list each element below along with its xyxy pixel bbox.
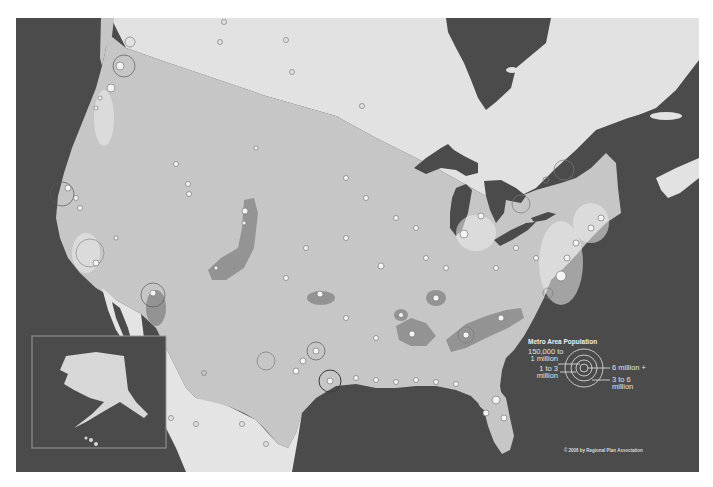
copyright-notice: © 2006 by Regional Plan Association — [564, 448, 643, 453]
megaregion-map: Metro Area Population 150,000 to 1 milli… — [16, 18, 699, 472]
legend-rings-icon — [558, 346, 610, 390]
megaregion-arizona — [146, 290, 166, 326]
legend-label-150k-1m: 150,000 to 1 million — [528, 348, 558, 362]
legend-label-1m-3m: 1 to 3 million — [532, 365, 558, 379]
legend-label-6m-plus: 6 million + — [612, 364, 646, 371]
legend-label-3m-6m: 3 to 6 million — [612, 376, 633, 390]
hudson-bay-island — [506, 67, 518, 73]
anticosti-island — [650, 112, 682, 120]
alaska-inset — [32, 336, 166, 448]
legend-title: Metro Area Population — [528, 338, 597, 345]
population-legend: Metro Area Population 150,000 to 1 milli… — [514, 338, 664, 418]
